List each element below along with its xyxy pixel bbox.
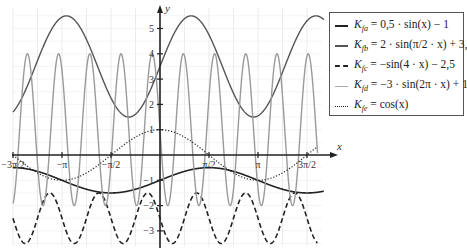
y-tick-label: 4	[149, 48, 154, 59]
y-tick-label: −2	[143, 200, 154, 211]
x-tick-label: −3π/2	[1, 159, 24, 170]
x-tick-label: −π	[57, 159, 68, 170]
legend-item-fe: Kfe = cos(x)	[335, 96, 459, 116]
legend-item-fa: Kfa = 0,5 · sin(x) − 1	[335, 16, 459, 36]
legend: Kfa = 0,5 · sin(x) − 1 Kfb = 2 · sin(π/2…	[329, 12, 464, 116]
y-tick-label: 5	[149, 23, 154, 34]
y-axis-label: y	[164, 2, 170, 14]
legend-item-fb: Kfb = 2 · sin(π/2 · x) + 3,5	[335, 36, 459, 56]
y-tick-label: −1	[143, 175, 154, 186]
x-tick-label: 3π/2	[298, 159, 316, 170]
legend-item-fc: Kfc = −sin(4 · x) − 2,5	[335, 56, 459, 76]
legend-item-fd: Kfd = −3 · sin(2π · x) + 1	[335, 76, 459, 96]
x-axis-arrow-icon	[330, 152, 338, 158]
y-axis-arrow-icon	[157, 5, 163, 13]
x-tick-label: π/2	[203, 159, 216, 170]
y-tick-label: 3	[149, 74, 154, 85]
dashed-line-icon	[335, 65, 348, 67]
solid-line-icon	[335, 45, 348, 47]
y-tick-label: −3	[143, 225, 154, 236]
x-tick-label: −π/2	[102, 159, 120, 170]
solid-line-icon	[335, 25, 348, 27]
x-tick-label: π	[255, 159, 260, 170]
x-axis-label: x	[336, 140, 342, 152]
light-line-icon	[335, 86, 348, 87]
dotted-line-icon	[335, 106, 348, 107]
y-tick-label: 2	[149, 99, 154, 110]
y-tick-label: 1	[149, 124, 154, 135]
